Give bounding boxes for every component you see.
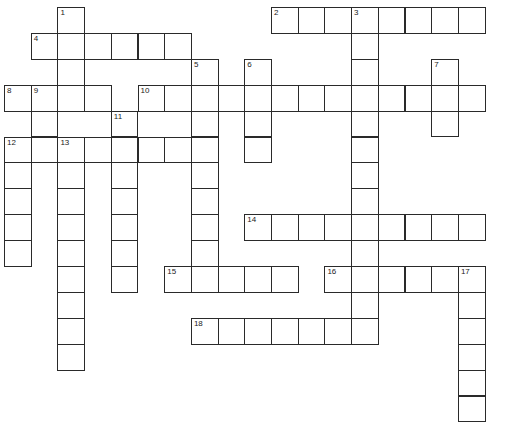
crossword-cell[interactable]: 4 <box>31 33 59 60</box>
crossword-cell[interactable]: 9 <box>31 85 59 112</box>
crossword-cell[interactable]: 18 <box>191 318 219 345</box>
crossword-cell[interactable] <box>351 111 379 138</box>
crossword-cell[interactable]: 12 <box>4 137 32 164</box>
crossword-cell[interactable] <box>458 214 486 241</box>
crossword-cell[interactable] <box>57 33 85 60</box>
crossword-cell[interactable] <box>218 266 246 293</box>
crossword-cell[interactable] <box>111 162 139 189</box>
crossword-cell[interactable] <box>351 214 379 241</box>
crossword-cell[interactable] <box>191 188 219 215</box>
crossword-cell[interactable]: 1 <box>57 7 85 34</box>
crossword-cell[interactable] <box>111 214 139 241</box>
crossword-cell[interactable] <box>84 137 112 164</box>
crossword-cell[interactable] <box>57 292 85 319</box>
crossword-cell[interactable] <box>271 266 299 293</box>
crossword-cell[interactable] <box>164 85 192 112</box>
crossword-cell[interactable] <box>84 85 112 112</box>
crossword-cell[interactable] <box>351 188 379 215</box>
crossword-cell[interactable] <box>271 318 299 345</box>
crossword-cell[interactable] <box>324 85 352 112</box>
crossword-cell[interactable] <box>431 266 459 293</box>
crossword-cell[interactable] <box>351 266 379 293</box>
crossword-cell[interactable] <box>378 7 406 34</box>
crossword-cell[interactable] <box>458 85 486 112</box>
crossword-cell[interactable] <box>271 214 299 241</box>
crossword-cell[interactable] <box>218 85 246 112</box>
crossword-cell[interactable] <box>57 240 85 267</box>
crossword-cell[interactable] <box>298 7 326 34</box>
crossword-cell[interactable] <box>271 85 299 112</box>
crossword-cell[interactable] <box>431 214 459 241</box>
crossword-cell[interactable] <box>405 85 433 112</box>
crossword-cell[interactable] <box>191 137 219 164</box>
crossword-cell[interactable] <box>111 240 139 267</box>
crossword-cell[interactable]: 14 <box>244 214 272 241</box>
crossword-cell[interactable] <box>431 111 459 138</box>
crossword-cell[interactable] <box>57 85 85 112</box>
crossword-cell[interactable] <box>324 7 352 34</box>
crossword-cell[interactable] <box>458 370 486 397</box>
crossword-cell[interactable] <box>298 214 326 241</box>
crossword-cell[interactable]: 8 <box>4 85 32 112</box>
crossword-cell[interactable]: 7 <box>431 59 459 86</box>
crossword-cell[interactable]: 13 <box>57 137 85 164</box>
crossword-cell[interactable] <box>351 318 379 345</box>
crossword-cell[interactable] <box>111 33 139 60</box>
crossword-cell[interactable] <box>31 111 59 138</box>
crossword-cell[interactable] <box>191 214 219 241</box>
crossword-cell[interactable] <box>244 85 272 112</box>
crossword-cell[interactable] <box>191 162 219 189</box>
crossword-cell[interactable]: 15 <box>164 266 192 293</box>
crossword-cell[interactable]: 11 <box>111 111 139 138</box>
crossword-cell[interactable] <box>458 344 486 371</box>
crossword-cell[interactable] <box>458 396 486 423</box>
crossword-cell[interactable] <box>191 240 219 267</box>
crossword-cell[interactable] <box>138 33 166 60</box>
crossword-cell[interactable] <box>138 137 166 164</box>
crossword-cell[interactable] <box>164 33 192 60</box>
crossword-cell[interactable] <box>191 111 219 138</box>
crossword-cell[interactable] <box>191 266 219 293</box>
crossword-cell[interactable] <box>351 137 379 164</box>
crossword-cell[interactable] <box>57 318 85 345</box>
crossword-cell[interactable] <box>378 85 406 112</box>
crossword-cell[interactable] <box>351 33 379 60</box>
crossword-cell[interactable]: 16 <box>324 266 352 293</box>
crossword-cell[interactable] <box>57 59 85 86</box>
crossword-cell[interactable]: 2 <box>271 7 299 34</box>
crossword-cell[interactable] <box>324 318 352 345</box>
crossword-cell[interactable] <box>431 7 459 34</box>
crossword-cell[interactable] <box>164 137 192 164</box>
crossword-cell[interactable] <box>84 33 112 60</box>
crossword-cell[interactable] <box>458 7 486 34</box>
crossword-cell[interactable] <box>351 162 379 189</box>
crossword-cell[interactable] <box>57 188 85 215</box>
crossword-cell[interactable] <box>111 266 139 293</box>
crossword-cell[interactable] <box>324 214 352 241</box>
crossword-cell[interactable] <box>4 188 32 215</box>
crossword-cell[interactable] <box>405 7 433 34</box>
crossword-cell[interactable] <box>4 214 32 241</box>
crossword-cell[interactable] <box>31 137 59 164</box>
crossword-cell[interactable] <box>57 214 85 241</box>
crossword-cell[interactable] <box>57 162 85 189</box>
crossword-cell[interactable] <box>244 137 272 164</box>
crossword-cell[interactable] <box>378 214 406 241</box>
crossword-cell[interactable] <box>111 188 139 215</box>
crossword-cell[interactable] <box>218 318 246 345</box>
crossword-cell[interactable] <box>298 318 326 345</box>
crossword-cell[interactable] <box>351 240 379 267</box>
crossword-cell[interactable] <box>298 85 326 112</box>
crossword-cell[interactable] <box>431 85 459 112</box>
crossword-cell[interactable]: 3 <box>351 7 379 34</box>
crossword-cell[interactable] <box>4 162 32 189</box>
crossword-cell[interactable] <box>405 266 433 293</box>
crossword-cell[interactable] <box>405 214 433 241</box>
crossword-cell[interactable]: 17 <box>458 266 486 293</box>
crossword-cell[interactable] <box>378 266 406 293</box>
crossword-cell[interactable] <box>351 59 379 86</box>
crossword-cell[interactable] <box>351 85 379 112</box>
crossword-cell[interactable] <box>111 137 139 164</box>
crossword-cell[interactable] <box>244 266 272 293</box>
crossword-cell[interactable] <box>57 344 85 371</box>
